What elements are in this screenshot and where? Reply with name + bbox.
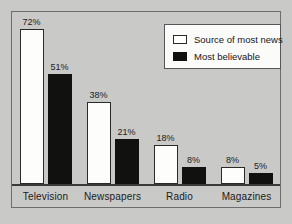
bar-value-label: 51% <box>50 63 68 72</box>
bar-rect <box>221 167 245 184</box>
black-filled-swatch-icon <box>173 52 187 61</box>
chart-frame: 72% 51% 38% 21% <box>11 11 281 208</box>
bar-rect <box>249 173 273 184</box>
bar-group-newspapers: 38% 21% <box>79 12 146 184</box>
bar-television-source-of-most-news[interactable]: 72% <box>20 12 44 184</box>
legend-label: Source of most news <box>194 34 283 45</box>
bar-television-most-believable[interactable]: 51% <box>48 12 72 184</box>
chart-legend: Source of most news Most believable <box>164 24 281 69</box>
white-outlined-swatch-icon <box>173 35 187 44</box>
bar-value-label: 18% <box>156 134 174 143</box>
legend-label: Most believable <box>194 51 260 62</box>
bar-rect <box>115 139 139 184</box>
bar-newspapers-source-of-most-news[interactable]: 38% <box>87 12 111 184</box>
bar-rect <box>48 74 72 184</box>
bar-value-label: 5% <box>254 162 267 171</box>
bar-value-label: 38% <box>89 91 107 100</box>
x-axis-label-radio: Radio <box>146 186 213 208</box>
bar-group-television: 72% 51% <box>12 12 79 184</box>
x-axis-label-newspapers: Newspapers <box>79 186 146 208</box>
legend-entry-most-believable[interactable]: Most believable <box>173 48 280 65</box>
bar-rect <box>87 102 111 184</box>
bar-value-label: 8% <box>226 156 239 165</box>
bar-rect <box>182 167 206 184</box>
bar-value-label: 8% <box>187 156 200 165</box>
bar-rect <box>20 29 44 184</box>
x-axis-labels: Television Newspapers Radio Magazines <box>12 186 280 208</box>
legend-entry-source-of-most-news[interactable]: Source of most news <box>173 31 280 48</box>
bar-rect <box>154 145 178 184</box>
bar-value-label: 21% <box>117 128 135 137</box>
bar-value-label: 72% <box>22 18 40 27</box>
x-axis-label-magazines: Magazines <box>213 186 280 208</box>
bar-newspapers-most-believable[interactable]: 21% <box>115 12 139 184</box>
x-axis-label-television: Television <box>12 186 79 208</box>
